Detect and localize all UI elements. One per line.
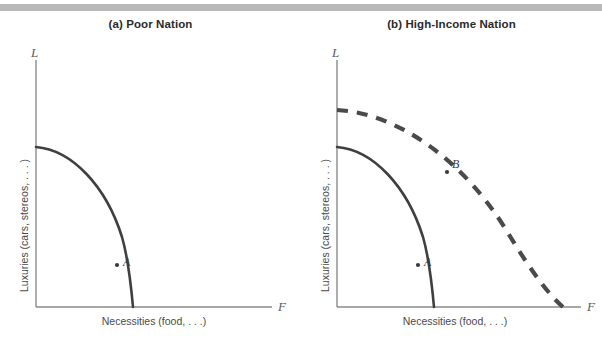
panel-b-point-b-label: B — [452, 157, 460, 171]
panel-b-x-axis-label: F — [586, 299, 596, 314]
panel-a-x-axis-label: F — [277, 299, 287, 314]
panel-b-point-b-marker — [445, 170, 449, 174]
panel-a-plot: L F A Necessities (food, . . .) — [0, 0, 301, 343]
panel-b-point-a-label: A — [423, 255, 432, 269]
panel-b-ppf-solid-curve — [337, 147, 434, 307]
panel-a-y-axis-label: L — [30, 45, 38, 60]
panel-b-y-axis-label: L — [331, 45, 339, 60]
panel-a-ppf-solid-curve — [36, 147, 133, 307]
panel-a-x-axis-caption: Necessities (food, . . .) — [102, 315, 206, 327]
panel-b-point-a-marker — [416, 263, 420, 267]
panel-b-x-axis-caption: Necessities (food, . . .) — [403, 315, 507, 327]
panel-b-plot: L F A B Necessities (food, . . .) — [301, 0, 602, 343]
panel-b-ppf-dashed-curve — [337, 110, 563, 307]
panel-high-income-nation: (b) High-Income Nation Luxuries (cars, s… — [301, 0, 602, 343]
panel-a-point-a-label: A — [122, 255, 131, 269]
figure-container: (a) Poor Nation Luxuries (cars, stereos,… — [0, 0, 602, 343]
panel-poor-nation: (a) Poor Nation Luxuries (cars, stereos,… — [0, 0, 301, 343]
panel-a-point-a-marker — [115, 263, 119, 267]
